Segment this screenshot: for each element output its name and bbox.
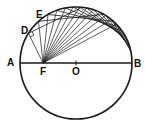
ray-from-F (43, 10, 93, 63)
label-O: O (72, 67, 80, 77)
label-B: B (134, 59, 141, 69)
geometry-diagram: A B F O D E (0, 0, 145, 126)
ray-from-F (29, 33, 43, 63)
label-E: E (36, 10, 43, 20)
ray-from-F (43, 19, 111, 63)
label-D: D (21, 26, 28, 36)
circle-construction-figure (0, 0, 145, 126)
label-A: A (7, 58, 14, 68)
perpendicular-chord (116, 24, 131, 51)
label-F: F (40, 67, 46, 77)
